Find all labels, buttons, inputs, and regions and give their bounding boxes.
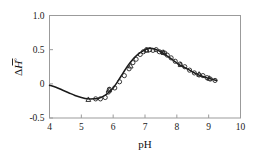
x-tick-label: 6 bbox=[111, 122, 116, 132]
y-tick-label: -0.5 bbox=[29, 113, 44, 123]
plot-frame bbox=[50, 16, 241, 119]
data-point-circle bbox=[122, 74, 126, 78]
x-axis-ticks bbox=[50, 115, 241, 119]
x-tick-label: 10 bbox=[236, 122, 246, 132]
y-axis-title-text: ΔH° bbox=[12, 58, 24, 76]
y-tick-label: 0 bbox=[40, 79, 45, 89]
x-axis-title: pH bbox=[138, 138, 152, 150]
x-axis-tick-labels: 45678910 bbox=[47, 122, 245, 132]
y-axis-title: ΔH° bbox=[12, 58, 24, 76]
y-axis-tick-labels: -0.500.51.0 bbox=[29, 11, 44, 124]
y-tick-label: 1.0 bbox=[33, 11, 45, 21]
x-tick-label: 9 bbox=[206, 122, 211, 132]
y-axis-ticks bbox=[50, 16, 54, 119]
x-tick-label: 5 bbox=[79, 122, 84, 132]
y-axis-delta-symbol: Δ bbox=[12, 69, 24, 76]
x-tick-label: 7 bbox=[143, 122, 148, 132]
chart-canvas: 45678910 -0.500.51.0 pH ΔH° bbox=[0, 0, 262, 153]
fitted-curve bbox=[50, 48, 217, 99]
x-tick-label: 8 bbox=[174, 122, 179, 132]
figure-container: 45678910 -0.500.51.0 pH ΔH° bbox=[0, 0, 262, 153]
x-tick-label: 4 bbox=[47, 122, 52, 132]
y-tick-label: 0.5 bbox=[33, 45, 45, 55]
data-point-circle bbox=[134, 57, 138, 61]
y-axis-degree-symbol: ° bbox=[13, 58, 21, 61]
